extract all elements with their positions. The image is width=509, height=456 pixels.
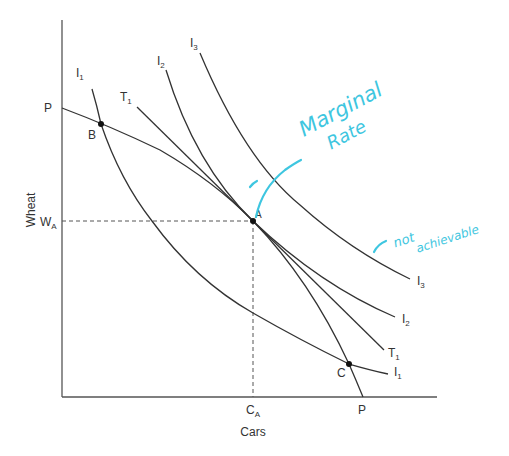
i2-top-label: I2 xyxy=(157,54,165,70)
ppf-indifference-diagram: Wheat Cars P P B A C I1 T1 I2 I3 I3 I2 T… xyxy=(0,0,509,456)
point-c-label: C xyxy=(337,366,346,380)
x-axis-label: Cars xyxy=(240,425,265,439)
not-achievable-pointer xyxy=(374,241,386,252)
i1-right-label: I1 xyxy=(394,365,402,381)
y-axis-label: Wheat xyxy=(24,192,38,227)
ink-tick-mark xyxy=(250,181,257,187)
t1-top-label: T1 xyxy=(120,90,132,106)
i1-top-label: I1 xyxy=(76,66,84,82)
i3-right-label: I3 xyxy=(417,274,425,290)
t1-right-label: T1 xyxy=(388,346,400,362)
i3-top-label: I3 xyxy=(190,36,198,52)
marginal-rate-annotation: Marginal Rate xyxy=(295,78,397,162)
svg-text:achievable: achievable xyxy=(414,222,480,255)
i2-right-label: I2 xyxy=(402,312,410,328)
point-b xyxy=(98,121,104,127)
ppf-y-intercept-label: P xyxy=(44,101,52,115)
ppf-x-intercept-label: P xyxy=(358,403,366,417)
not-achievable-annotation: not achievable xyxy=(391,210,480,262)
point-c xyxy=(346,361,352,367)
point-b-label: B xyxy=(88,128,96,142)
svg-text:not: not xyxy=(391,229,417,250)
wa-label: WA xyxy=(40,215,57,231)
marginal-rate-pointer xyxy=(256,160,301,217)
ppf-curve xyxy=(62,108,363,397)
ca-label: CA xyxy=(246,403,261,419)
